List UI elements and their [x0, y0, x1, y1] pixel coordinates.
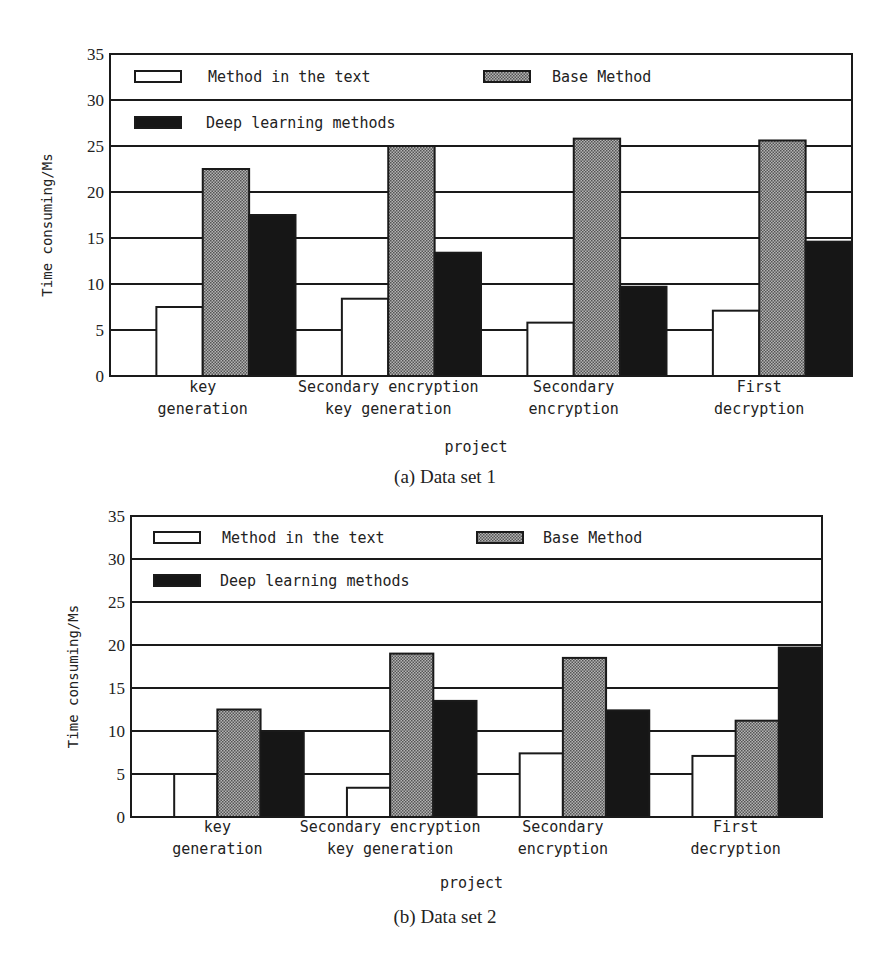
- bar-white: [520, 753, 563, 817]
- legend-swatch-icon: [477, 532, 523, 543]
- x-category-label: key: [204, 818, 231, 836]
- x-category-label: decryption: [690, 840, 780, 858]
- legend-swatch-icon: [154, 575, 200, 586]
- y-tick-label: 10: [108, 722, 125, 741]
- caption-b: (b) Data set 2: [0, 906, 890, 928]
- y-tick-label: 35: [108, 507, 125, 526]
- x-category-label: Secondary: [522, 818, 603, 836]
- x-category-label: generation: [172, 840, 262, 858]
- x-axis-label: project: [440, 874, 503, 892]
- bar-hatched: [217, 710, 260, 818]
- legend-label: Deep learning methods: [220, 572, 410, 590]
- y-tick-label: 25: [108, 593, 125, 612]
- bar-white: [174, 774, 217, 817]
- x-category-label: encryption: [518, 840, 608, 858]
- chart-b: 05101520253035Time consuming/Mskeygenera…: [0, 0, 890, 954]
- bar-black: [779, 648, 822, 817]
- bar-black: [433, 701, 476, 817]
- y-tick-label: 0: [117, 808, 126, 827]
- legend-label: Method in the text: [222, 529, 385, 547]
- bar-black: [261, 731, 304, 817]
- x-category-label: Secondary encryption: [300, 818, 481, 836]
- x-category-label: First: [713, 818, 758, 836]
- bar-white: [347, 788, 390, 817]
- legend-swatch-icon: [154, 532, 200, 543]
- bar-white: [692, 756, 735, 817]
- bar-black: [606, 710, 649, 817]
- y-tick-label: 20: [108, 636, 125, 655]
- bar-hatched: [390, 654, 433, 817]
- y-tick-label: 30: [108, 550, 125, 569]
- y-tick-label: 5: [117, 765, 126, 784]
- legend-label: Base Method: [543, 529, 642, 547]
- bar-hatched: [563, 658, 606, 817]
- bar-hatched: [736, 721, 779, 817]
- y-tick-label: 15: [108, 679, 125, 698]
- y-axis-label: Time consuming/Ms: [65, 605, 81, 748]
- x-category-label: key generation: [327, 840, 453, 858]
